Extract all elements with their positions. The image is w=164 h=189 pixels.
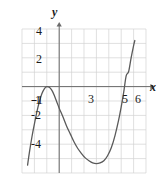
x-tick-label-3: 3 bbox=[88, 93, 94, 105]
x-tick-label-5: 5 bbox=[122, 93, 128, 105]
y-tick-label-4: 4 bbox=[36, 25, 42, 37]
y-tick-label-neg4: -4 bbox=[31, 138, 41, 150]
y-axis-title: y bbox=[52, 6, 57, 18]
x-tick-label-6: 6 bbox=[135, 93, 141, 105]
curve-path bbox=[28, 41, 135, 166]
x-tick-label-neg1: -1 bbox=[33, 94, 43, 106]
y-tick-label-2: 2 bbox=[36, 53, 42, 65]
x-axis-title: x bbox=[150, 81, 156, 93]
y-tick-label-neg2: -2 bbox=[31, 109, 41, 121]
graph-figure: 4 2 -1 -2 -4 -1 3 5 6 y x bbox=[0, 0, 164, 189]
